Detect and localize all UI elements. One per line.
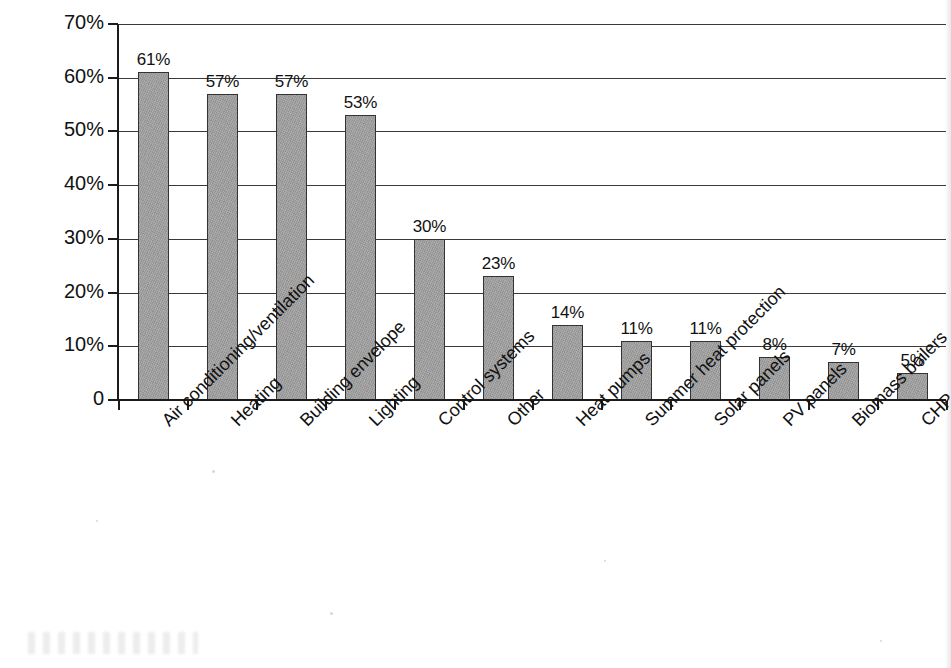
bar (138, 72, 169, 400)
bar-chart: 010%20%30%40%50%60%70% Air conditioning/… (0, 0, 951, 668)
bar-value-label: 11% (603, 319, 670, 339)
scan-speck-artifact (212, 470, 215, 473)
bar-value-label: 61% (120, 50, 187, 70)
scan-speck-artifact (330, 612, 333, 615)
bar-value-label: 8% (741, 335, 808, 355)
bar-value-label: 14% (534, 303, 601, 323)
y-axis-tick-label: 10% (0, 333, 104, 356)
bar-value-label: 57% (258, 72, 325, 92)
scan-speck-artifact (880, 640, 882, 642)
y-axis-tick-label: 0 (0, 387, 104, 410)
bar-value-label: 53% (327, 93, 394, 113)
bar-value-label: 11% (672, 319, 739, 339)
gridline (118, 293, 946, 294)
bar-value-label: 23% (465, 254, 532, 274)
bar (276, 94, 307, 400)
y-axis-tick-label: 50% (0, 118, 104, 141)
y-axis-tick-label: 30% (0, 226, 104, 249)
y-axis-tick-label: 70% (0, 11, 104, 34)
gridline (118, 239, 946, 240)
bar (552, 325, 583, 400)
y-axis-tick-label: 40% (0, 172, 104, 195)
scan-speck-artifact (96, 520, 98, 522)
gridline (118, 24, 946, 25)
y-axis-line (117, 24, 119, 401)
bar-value-label: 57% (189, 72, 256, 92)
bar (414, 239, 445, 400)
scan-smudge-artifact (28, 632, 198, 654)
bar-value-label: 7% (810, 340, 877, 360)
bar-value-label: 30% (396, 217, 463, 237)
gridline (118, 131, 946, 132)
bar-value-label: 5% (879, 351, 946, 371)
scan-speck-artifact (604, 560, 606, 562)
y-axis-tick-label: 60% (0, 65, 104, 88)
x-axis-tick (118, 401, 120, 410)
gridline (118, 185, 946, 186)
y-axis-tick-label: 20% (0, 280, 104, 303)
